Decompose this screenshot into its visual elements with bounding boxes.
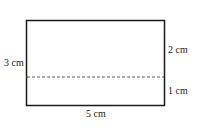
right-top-label: 2 cm	[168, 44, 188, 55]
outer-rectangle	[27, 21, 165, 106]
right-bottom-label: 1 cm	[168, 85, 188, 96]
left-label: 3 cm	[4, 57, 24, 68]
rectangle-diagram: 3 cm 2 cm 1 cm 5 cm	[0, 0, 200, 129]
bottom-label: 5 cm	[86, 108, 106, 119]
